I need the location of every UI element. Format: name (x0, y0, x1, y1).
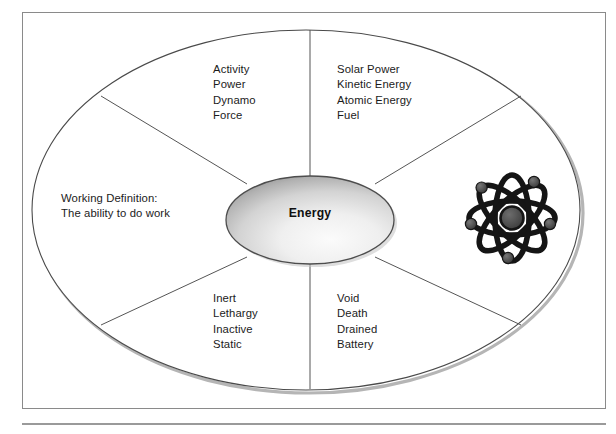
word-item: Battery (337, 337, 377, 352)
quadrant-lower-left-words: Inert Lethargy Inactive Static (213, 291, 258, 353)
quadrant-upper-right-words: Solar Power Kinetic Energy Atomic Energy… (337, 62, 412, 124)
figure-page: Activity Power Dynamo Force Solar Power … (0, 0, 616, 434)
center-ellipse (226, 176, 394, 264)
atom-nucleus (501, 207, 524, 230)
center-label: Energy (226, 206, 394, 220)
word-item: Atomic Energy (337, 93, 412, 108)
electron-1 (476, 182, 487, 193)
word-item: Inert (213, 291, 258, 306)
bottom-rule (22, 423, 606, 425)
word-item: Kinetic Energy (337, 77, 412, 92)
electron-4 (465, 218, 476, 229)
working-definition-block: Working Definition: The ability to do wo… (61, 191, 170, 222)
word-item: Solar Power (337, 62, 412, 77)
word-item: Fuel (337, 108, 412, 123)
electron-5 (502, 252, 513, 263)
word-item: Drained (337, 322, 377, 337)
word-item: Void (337, 291, 377, 306)
word-item: Lethargy (213, 306, 258, 321)
word-item: Power (213, 77, 256, 92)
electron-2 (528, 176, 539, 187)
electron-3 (544, 218, 555, 229)
working-definition-heading: Working Definition: (61, 191, 170, 206)
word-item: Force (213, 108, 256, 123)
quadrant-lower-right-words: Void Death Drained Battery (337, 291, 377, 353)
word-item: Activity (213, 62, 256, 77)
quadrant-upper-left-words: Activity Power Dynamo Force (213, 62, 256, 124)
working-definition-text: The ability to do work (61, 206, 170, 221)
word-item: Static (213, 337, 258, 352)
word-item: Inactive (213, 322, 258, 337)
word-item: Dynamo (213, 93, 256, 108)
word-item: Death (337, 306, 377, 321)
